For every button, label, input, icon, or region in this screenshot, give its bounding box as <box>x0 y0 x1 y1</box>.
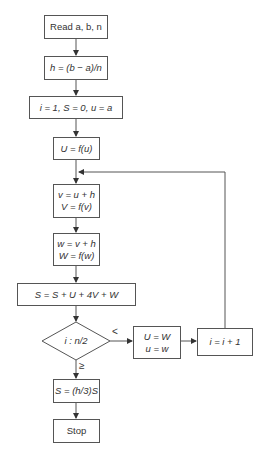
stop-box: Stop <box>53 419 100 443</box>
read-input-box: Read a, b, n <box>44 15 108 39</box>
w-line2: W = f(w) <box>59 250 95 262</box>
shift-line2: u = w <box>146 343 169 355</box>
less-than-label: < <box>112 326 118 337</box>
increment-text: i = i + 1 <box>209 336 240 348</box>
v-line2: V = f(v) <box>61 201 92 213</box>
v-line1: v = u + h <box>58 189 95 201</box>
geq-label: ≥ <box>79 360 85 371</box>
increment-box: i = i + 1 <box>197 328 253 356</box>
sum-text: S = S + U + 4V + W <box>35 289 118 301</box>
shift-line1: U = W <box>144 331 171 343</box>
w-line1: w = v + h <box>57 238 96 250</box>
read-text: Read a, b, n <box>50 21 102 33</box>
flowchart-connectors <box>0 0 266 454</box>
decision-diamond-text: i : n/2 <box>46 335 106 346</box>
eval-w-box: w = v + h W = f(w) <box>53 233 100 266</box>
final-text: S = (h/3)S <box>55 385 98 397</box>
sum-box: S = S + U + 4V + W <box>17 283 136 306</box>
step-size-text: h = (b − a)/n <box>50 62 102 74</box>
eval-u-box: U = f(u) <box>53 137 100 160</box>
init-box: i = 1, S = 0, u = a <box>29 96 123 119</box>
shift-box: U = W u = w <box>133 326 181 359</box>
stop-text: Stop <box>67 425 87 437</box>
init-text: i = 1, S = 0, u = a <box>40 102 113 114</box>
final-box: S = (h/3)S <box>53 379 100 403</box>
eval-v-box: v = u + h V = f(v) <box>53 184 100 218</box>
eval-u-text: U = f(u) <box>61 143 93 155</box>
step-size-box: h = (b − a)/n <box>44 56 108 80</box>
